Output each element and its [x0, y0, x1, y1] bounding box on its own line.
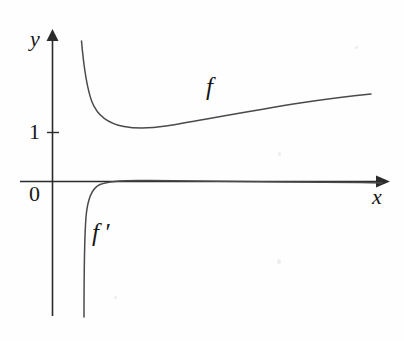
y-axis-arrow-icon [47, 29, 59, 41]
y-tick-label-one: 1 [29, 121, 40, 143]
curve-f-prime-label: f ′ [92, 220, 109, 245]
x-axis-label: x [372, 186, 382, 208]
curve-f [82, 41, 372, 128]
origin-label-zero: 0 [29, 183, 40, 205]
curve-f-prime [84, 180, 382, 317]
y-axis-label: y [30, 28, 40, 50]
plot-canvas [0, 0, 404, 341]
function-graph-figure: y x 1 0 f f ′ [0, 0, 404, 341]
curve-f-label: f [206, 74, 213, 99]
